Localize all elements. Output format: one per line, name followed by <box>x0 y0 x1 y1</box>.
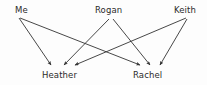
node-rogan: Rogan <box>95 5 122 15</box>
node-rachel: Rachel <box>133 70 162 80</box>
diagram-canvas: Me Rogan Keith Heather Rachel <box>0 0 207 85</box>
node-me: Me <box>15 5 28 15</box>
node-keith: Keith <box>174 5 196 15</box>
edge-me-to-rachel <box>20 18 140 65</box>
edge-rogan-to-rachel <box>113 19 150 65</box>
edge-keith-to-heather <box>75 18 186 65</box>
node-heather: Heather <box>42 70 77 80</box>
edge-me-to-heather <box>19 18 51 65</box>
edge-keith-to-rachel <box>160 19 187 65</box>
edge-group <box>19 18 187 65</box>
edge-rogan-to-heather <box>64 19 109 65</box>
